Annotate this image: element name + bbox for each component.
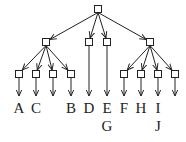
root-node (95, 6, 102, 13)
label-a: A (14, 100, 25, 116)
node-m3 (104, 39, 111, 46)
label-i: I (156, 100, 161, 116)
label-b: B (66, 100, 76, 116)
label-e: E (102, 100, 111, 116)
node-m1 (43, 39, 50, 46)
label-j: J (155, 118, 161, 134)
leaf-node-5 (138, 71, 145, 78)
leaf-node-2 (50, 71, 57, 78)
tree-diagram: ACBDEFHIGJ (0, 0, 186, 142)
label-c: C (31, 100, 41, 116)
leaf-node-0 (16, 71, 23, 78)
node-m4 (147, 39, 154, 46)
label-f: F (120, 100, 128, 116)
label-g: G (102, 118, 113, 134)
leaf-node-6 (155, 71, 162, 78)
edge-leaf-0 (22, 46, 46, 71)
edge-leaf-1 (37, 46, 46, 71)
leaf-node-1 (33, 71, 40, 78)
leaf-node-7 (172, 71, 179, 78)
label-h: H (136, 100, 147, 116)
node-m2 (86, 39, 93, 46)
leaf-node-4 (121, 71, 128, 78)
label-d: D (84, 100, 95, 116)
leaf-node-3 (68, 71, 75, 78)
